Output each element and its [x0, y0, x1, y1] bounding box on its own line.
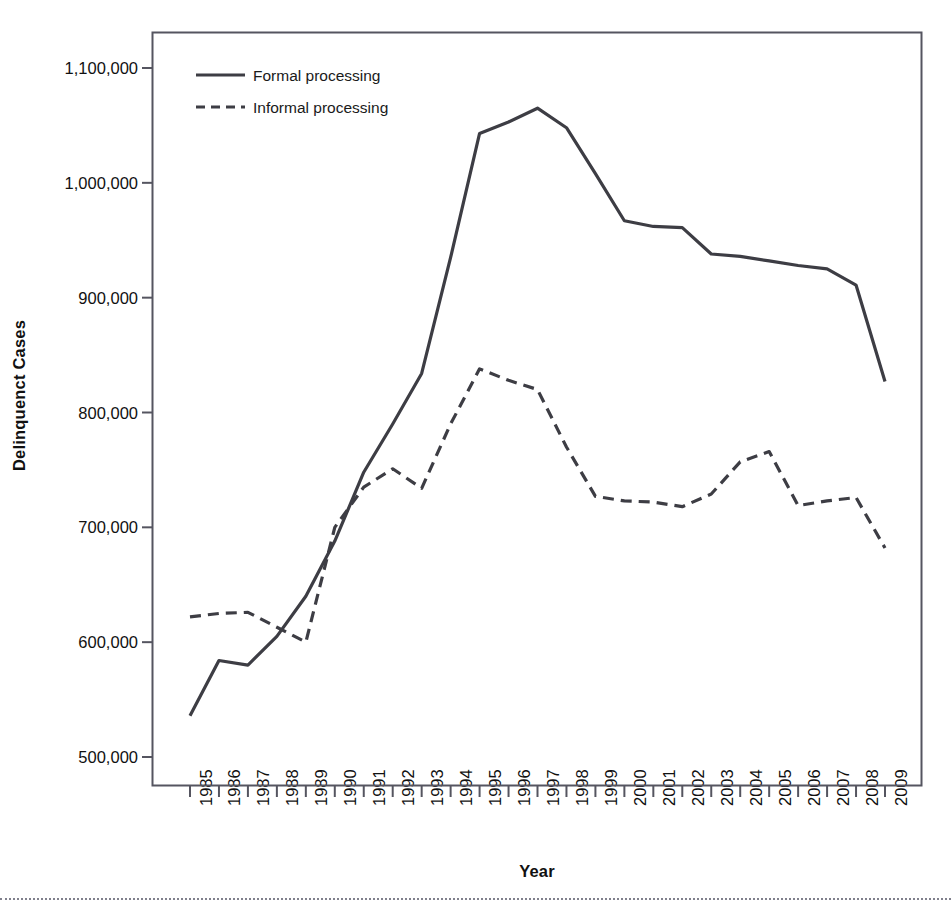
- x-tick-marks: [190, 785, 885, 797]
- chart-figure: Delinquenct Cases 500,000600,000700,0008…: [0, 0, 951, 911]
- plot-frame: [153, 33, 922, 786]
- y-tick-marks: [142, 68, 152, 757]
- plot-area: [0, 0, 951, 911]
- legend-label-formal: Formal processing: [253, 67, 381, 85]
- data-series-layer: [190, 108, 885, 715]
- series-line-informal-processing: [190, 369, 885, 642]
- legend-line-samples: [196, 75, 245, 107]
- legend-label-informal: Informal processing: [253, 99, 388, 117]
- series-line-formal-processing: [190, 108, 885, 715]
- page-bottom-divider: [0, 898, 951, 900]
- x-axis-title: Year: [152, 862, 922, 881]
